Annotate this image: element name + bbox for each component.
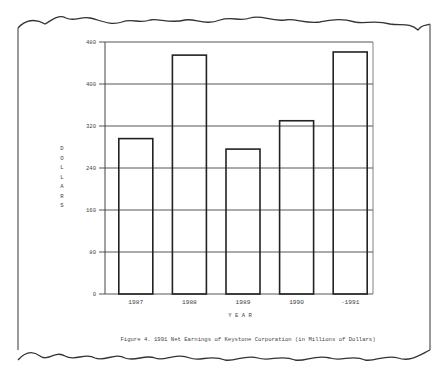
torn-edge-bottom xyxy=(18,350,430,360)
bar-1991 xyxy=(333,52,367,294)
y-tick-label: 240 xyxy=(86,165,97,172)
y-tick-label: 320 xyxy=(86,123,97,130)
y-tick-label: 400 xyxy=(86,81,97,88)
x-tick-label: ·1991 xyxy=(341,299,360,306)
y-axis-label-letter: L xyxy=(60,164,63,171)
y-axis-label-letter: L xyxy=(60,174,63,181)
bar-1987 xyxy=(119,139,153,294)
y-axis-label-letter: A xyxy=(60,183,64,190)
torn-edge-top xyxy=(18,17,430,30)
chart-figure: 0801602403204004801987198819891990·1991D… xyxy=(0,0,446,377)
plot-area: 0801602403204004801987198819891990·1991D… xyxy=(60,39,373,306)
y-axis-label-letter: R xyxy=(60,193,64,200)
y-axis-label-letter: D xyxy=(60,145,64,152)
torn-paper-page: 0801602403204004801987198819891990·1991D… xyxy=(0,0,446,377)
x-tick-label: 1990 xyxy=(289,299,304,306)
x-tick-label: 1988 xyxy=(182,299,197,306)
y-axis-label-letter: O xyxy=(60,155,64,162)
bar-1989 xyxy=(226,149,260,294)
y-tick-label: 160 xyxy=(86,207,97,214)
y-tick-label: 0 xyxy=(93,291,97,298)
x-tick-label: 1989 xyxy=(236,299,251,306)
bar-1988 xyxy=(172,55,206,294)
y-axis-label-letter: S xyxy=(60,202,64,209)
bar-1990 xyxy=(280,121,314,294)
y-tick-label: 480 xyxy=(86,39,97,46)
figure-caption: Figure 4. 1991 Net Earnings of Keystone … xyxy=(120,336,375,343)
x-axis-label: Y E A R xyxy=(228,312,252,319)
y-tick-label: 80 xyxy=(89,249,96,256)
x-tick-label: 1987 xyxy=(128,299,143,306)
